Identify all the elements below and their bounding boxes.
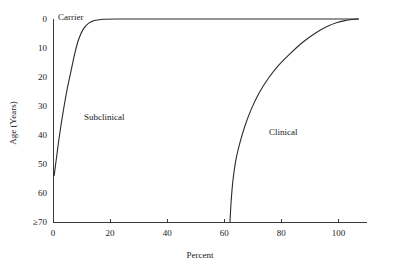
curve-clinical xyxy=(230,19,358,222)
x-axis-title: Percent xyxy=(170,250,230,260)
x-tick-label: 100 xyxy=(323,228,353,238)
y-tick-label: 60 xyxy=(17,188,47,198)
x-tick-label: 80 xyxy=(266,228,296,238)
y-tick-label: 40 xyxy=(17,130,47,140)
annotation-carrier: Carrier xyxy=(58,12,83,22)
annotation-clinical: Clinical xyxy=(269,127,298,137)
curve-subclinical xyxy=(54,19,358,176)
x-ticks-group xyxy=(54,219,339,222)
y-tick-label: ≥70 xyxy=(17,217,47,227)
y-tick-label: 20 xyxy=(17,72,47,82)
annotation-subclinical: Subclinical xyxy=(84,112,125,122)
x-tick-label: 0 xyxy=(38,228,68,238)
x-tick-label: 60 xyxy=(209,228,239,238)
y-axis-title: Age (Years) xyxy=(8,88,18,158)
x-tick-label: 40 xyxy=(152,228,182,238)
x-tick-label: 20 xyxy=(95,228,125,238)
y-tick-label: 50 xyxy=(17,159,47,169)
y-tick-label: 10 xyxy=(17,43,47,53)
y-tick-label: 0 xyxy=(17,14,47,24)
chart-container: Age (Years) Percent 0102030405060≥70 020… xyxy=(0,0,394,270)
y-tick-label: 30 xyxy=(17,101,47,111)
